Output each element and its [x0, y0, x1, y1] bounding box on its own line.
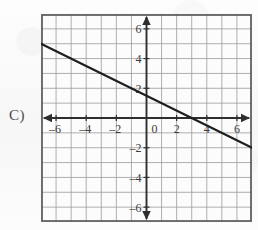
x-tick-label: –4 — [78, 122, 91, 136]
x-tick-label: 2 — [174, 122, 180, 136]
x-tick-label: –6 — [48, 122, 61, 136]
y-tick-label: 4 — [136, 52, 142, 66]
x-tick-label: 6 — [234, 122, 240, 136]
graph-question-image: C) –6–4–20246–6–4–2246 — [0, 0, 258, 230]
y-tick-label: –4 — [129, 171, 142, 185]
x-tick-label: 0 — [152, 122, 158, 136]
y-tick-label: –6 — [129, 201, 142, 215]
coordinate-plane: –6–4–20246–6–4–2246 — [41, 14, 252, 222]
y-tick-label: 6 — [136, 22, 142, 36]
graph-svg: –6–4–20246–6–4–2246 — [41, 14, 252, 222]
choice-label-c: C) — [9, 107, 25, 124]
y-tick-label: –2 — [129, 141, 142, 155]
x-tick-label: –2 — [108, 122, 121, 136]
